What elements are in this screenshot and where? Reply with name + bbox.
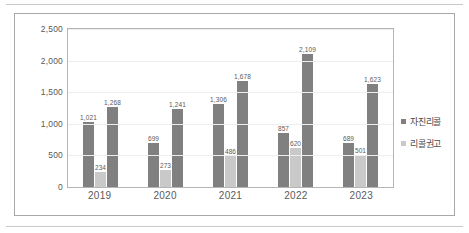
x-axis-tick: 2021	[198, 190, 263, 210]
bar[interactable]	[160, 170, 171, 187]
y-axis-tick: 500	[48, 150, 63, 160]
legend-label: 자진리콜	[410, 115, 441, 128]
bar[interactable]	[367, 84, 378, 187]
bar-value-label: 1,678	[234, 73, 251, 80]
bar-group: 6992731,241	[133, 29, 198, 187]
x-axis-tick: 2019	[67, 190, 132, 210]
bar[interactable]	[355, 155, 366, 187]
bar[interactable]	[278, 133, 289, 187]
bar-wrapper: 2,109	[302, 29, 313, 187]
gridline	[68, 92, 393, 93]
bar-value-label: 620	[290, 140, 301, 147]
page-divider-top	[6, 4, 463, 5]
bar-wrapper: 1,241	[172, 29, 183, 187]
bar[interactable]	[302, 54, 313, 187]
bar-value-label: 1,623	[364, 76, 381, 83]
gridline	[68, 124, 393, 125]
x-axis-tick: 2023	[329, 190, 394, 210]
x-axis-tick: 2022	[263, 190, 328, 210]
bar[interactable]	[213, 104, 224, 187]
bar-group: 1,3064861,678	[198, 29, 263, 187]
legend-item[interactable]: 리콜권고	[401, 137, 453, 150]
bar-group: 6895011,623	[328, 29, 393, 187]
chart-frame: 05001,0001,5002,0002,500 1,0212341,26869…	[14, 13, 455, 216]
y-axis-tick: 2,500	[41, 24, 63, 34]
bar-value-label: 1,241	[169, 101, 186, 108]
legend-item[interactable]: 자진리콜	[401, 115, 453, 128]
y-axis-tick: 0	[58, 182, 63, 192]
legend-swatch-icon	[401, 119, 406, 124]
bar-value-label: 501	[355, 147, 366, 154]
y-axis-tick: 2,000	[41, 56, 63, 66]
bar[interactable]	[225, 156, 236, 187]
bar-wrapper: 1,306	[213, 29, 224, 187]
bar-groups: 1,0212341,2686992731,2411,3064861,678857…	[68, 29, 393, 187]
legend-label: 리콜권고	[410, 137, 441, 150]
bar-wrapper: 501	[355, 29, 366, 187]
bar[interactable]	[237, 81, 248, 187]
bar-value-label: 689	[343, 135, 354, 142]
bar-wrapper: 689	[343, 29, 354, 187]
bar-value-label: 2,109	[299, 46, 316, 53]
bar-wrapper: 699	[148, 29, 159, 187]
bar[interactable]	[148, 143, 159, 187]
bar-wrapper: 273	[160, 29, 171, 187]
bar-value-label: 273	[160, 162, 171, 169]
x-axis-tick: 2020	[132, 190, 197, 210]
bar-group: 1,0212341,268	[68, 29, 133, 187]
bar-value-label: 857	[278, 125, 289, 132]
bar[interactable]	[95, 172, 106, 187]
legend-swatch-icon	[401, 141, 406, 146]
bar-wrapper: 1,021	[83, 29, 94, 187]
bar-group: 8576202,109	[263, 29, 328, 187]
bar-value-label: 486	[225, 148, 236, 155]
chart-legend: 자진리콜리콜권고	[401, 115, 453, 159]
bar[interactable]	[343, 143, 354, 187]
bar-wrapper: 1,623	[367, 29, 378, 187]
bar-wrapper: 486	[225, 29, 236, 187]
gridline	[68, 61, 393, 62]
bar[interactable]	[290, 148, 301, 187]
bar-wrapper: 1,268	[107, 29, 118, 187]
bar[interactable]	[107, 107, 118, 187]
bar-value-label: 1,268	[104, 99, 121, 106]
bar-wrapper: 234	[95, 29, 106, 187]
bar[interactable]	[172, 109, 183, 187]
bar-wrapper: 857	[278, 29, 289, 187]
x-axis-labels: 20192020202120222023	[67, 190, 394, 210]
bar-wrapper: 1,678	[237, 29, 248, 187]
gridline	[68, 155, 393, 156]
y-axis-tick: 1,500	[41, 87, 63, 97]
y-axis-labels: 05001,0001,5002,0002,500	[19, 28, 63, 188]
plot-area: 1,0212341,2686992731,2411,3064861,678857…	[67, 28, 394, 188]
page-divider-bottom	[6, 226, 463, 227]
bar-value-label: 699	[148, 135, 159, 142]
y-axis-tick: 1,000	[41, 119, 63, 129]
gridline	[68, 29, 393, 30]
bar-value-label: 234	[95, 164, 106, 171]
